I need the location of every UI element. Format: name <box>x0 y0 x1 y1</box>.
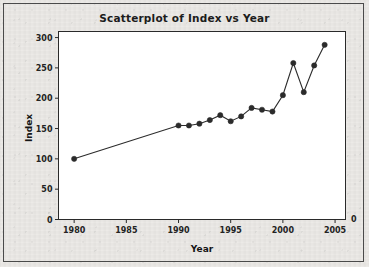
y-axis-ticks: 050100150200250300 <box>36 34 59 225</box>
data-point <box>322 42 327 47</box>
data-point <box>72 156 77 161</box>
plot-area <box>59 32 346 220</box>
x-tick-label: 1980 <box>63 226 86 235</box>
x-axis-ticks: 198019851990199520002005 <box>63 220 347 235</box>
right-baseline-zero-label: 0 <box>351 215 357 224</box>
x-tick-label: 1990 <box>167 226 190 235</box>
y-tick-label: 0 <box>47 216 53 225</box>
x-tick-label: 1985 <box>115 226 138 235</box>
y-tick-label: 300 <box>36 34 53 43</box>
data-point <box>301 90 306 95</box>
y-tick-label: 50 <box>41 185 53 194</box>
y-tick-label: 100 <box>36 155 53 164</box>
data-point <box>228 119 233 124</box>
data-point <box>249 105 254 110</box>
y-tick-label: 250 <box>36 64 53 73</box>
data-point <box>270 109 275 114</box>
y-tick-label: 150 <box>36 125 53 134</box>
data-point <box>291 60 296 65</box>
data-point <box>207 117 212 122</box>
data-point <box>186 123 191 128</box>
y-axis-title: Index <box>24 114 34 142</box>
x-tick-label: 1995 <box>220 226 243 235</box>
x-axis-title: Year <box>190 244 214 254</box>
data-point <box>176 123 181 128</box>
scatterplot-canvas: 050100150200250300 198019851990199520002… <box>0 0 369 267</box>
data-point <box>312 63 317 68</box>
y-tick-label: 200 <box>36 94 53 103</box>
data-point <box>197 121 202 126</box>
x-tick-label: 2005 <box>324 226 347 235</box>
data-point <box>280 93 285 98</box>
x-tick-label: 2000 <box>272 226 295 235</box>
data-point <box>239 114 244 119</box>
data-point <box>259 107 264 112</box>
chart-figure: Scatterplot of Index vs Year 05010015020… <box>0 0 369 267</box>
data-point <box>218 113 223 118</box>
